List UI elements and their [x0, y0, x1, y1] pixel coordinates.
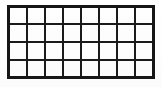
grid-cell[interactable] — [9, 7, 27, 25]
grid-cell[interactable] — [81, 60, 99, 78]
grid-body — [9, 7, 154, 78]
grid-cell[interactable] — [27, 24, 45, 42]
grid-cell[interactable] — [135, 42, 153, 60]
grid-cell[interactable] — [81, 24, 99, 42]
grid-cell[interactable] — [9, 60, 27, 78]
grid-cell[interactable] — [135, 24, 153, 42]
grid-table — [7, 5, 155, 79]
grid-cell[interactable] — [45, 60, 63, 78]
grid-row — [9, 7, 154, 25]
grid-cell[interactable] — [99, 7, 117, 25]
grid-row — [9, 60, 154, 78]
grid-cell[interactable] — [27, 42, 45, 60]
grid-cell[interactable] — [9, 42, 27, 60]
grid-cell[interactable] — [45, 7, 63, 25]
grid-cell[interactable] — [99, 60, 117, 78]
grid-row — [9, 24, 154, 42]
grid-row — [9, 42, 154, 60]
grid-cell[interactable] — [27, 60, 45, 78]
grid-cell[interactable] — [45, 24, 63, 42]
grid-cell[interactable] — [63, 7, 81, 25]
grid-cell[interactable] — [99, 42, 117, 60]
grid-cell[interactable] — [45, 42, 63, 60]
grid-cell[interactable] — [9, 24, 27, 42]
grid-cell[interactable] — [117, 42, 135, 60]
grid-cell[interactable] — [63, 42, 81, 60]
grid-cell[interactable] — [135, 60, 153, 78]
grid-cell[interactable] — [117, 7, 135, 25]
grid-cell[interactable] — [81, 7, 99, 25]
grid-diagram — [7, 5, 155, 79]
grid-cell[interactable] — [99, 24, 117, 42]
grid-cell[interactable] — [135, 7, 153, 25]
grid-cell[interactable] — [27, 7, 45, 25]
grid-cell[interactable] — [117, 24, 135, 42]
grid-cell[interactable] — [81, 42, 99, 60]
grid-cell[interactable] — [117, 60, 135, 78]
grid-cell[interactable] — [63, 24, 81, 42]
grid-cell[interactable] — [63, 60, 81, 78]
